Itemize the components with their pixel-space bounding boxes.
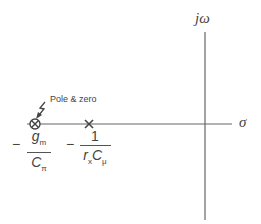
real-axis-label: σ [239,114,246,131]
second-label-sign: − [66,136,74,152]
zigzag-arrow-icon [36,102,45,119]
first-label-denominator: Cπ [31,155,47,176]
first-label-sign: − [12,136,20,152]
second-label-denominator: rxCμ [83,148,106,169]
s-plane-diagram: jω σ Pole & zero − gm Cπ − 1 rxCμ [0,0,261,224]
first-pole-label: gm Cπ [26,129,52,176]
second-label-numerator: 1 [91,129,99,143]
fraction-bar [27,152,51,153]
fraction-bar [80,145,111,146]
first-label-numerator: gm [32,129,46,150]
second-pole-label: 1 rxCμ [79,129,111,169]
axes-graphic [0,0,261,224]
pole-zero-annotation: Pole & zero [50,94,97,104]
imaginary-axis-label: jω [195,10,210,27]
